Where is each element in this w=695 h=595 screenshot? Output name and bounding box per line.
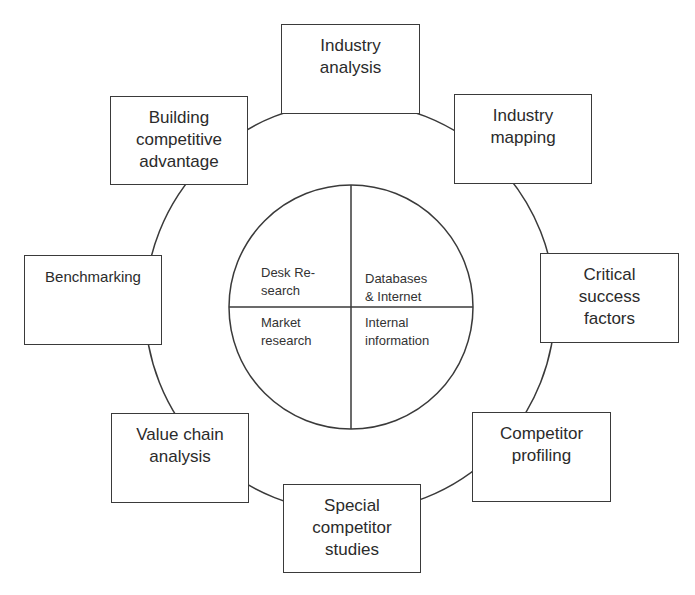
node-value-chain-analysis: Value chain analysis (111, 413, 249, 503)
quadrant-internal-information: Internal information (365, 314, 429, 350)
quadrant-desk-research: Desk Re- search (261, 264, 315, 300)
node-special-competitor-studies: Special competitor studies (283, 484, 421, 573)
quadrant-databases-internet: Databases & Internet (365, 270, 427, 306)
node-benchmarking: Benchmarking (24, 255, 162, 345)
node-competitor-profiling: Competitor profiling (472, 412, 611, 502)
quadrant-market-research: Market research (261, 314, 312, 350)
node-building-competitive-advantage: Building competitive advantage (110, 96, 248, 185)
node-industry-mapping: Industry mapping (454, 94, 592, 184)
node-critical-success-factors: Critical success factors (540, 253, 679, 343)
node-industry-analysis: Industry analysis (281, 24, 420, 114)
